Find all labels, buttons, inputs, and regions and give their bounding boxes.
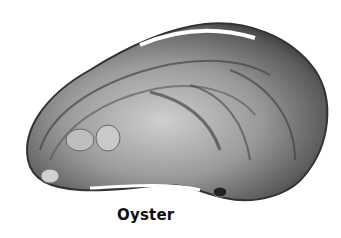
figure-caption: Oyster (117, 206, 174, 224)
oyster-shell-illustration (0, 0, 341, 238)
